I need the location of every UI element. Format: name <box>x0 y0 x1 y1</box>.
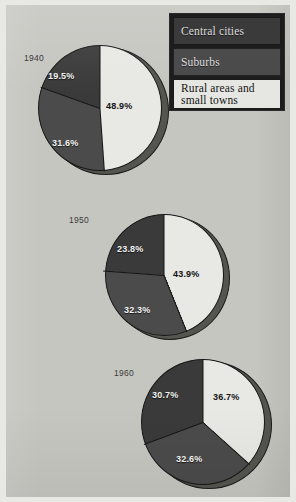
pie-value-1960-suburbs: 32.6% <box>176 454 203 464</box>
pie-value-1940-rural: 48.9% <box>106 101 133 111</box>
pie-seg-line-1940-a <box>100 46 101 109</box>
pie-value-1950-rural: 43.9% <box>173 269 200 279</box>
legend-item-rural-areas-and-small-towns: Rural areas and small towns <box>173 79 281 109</box>
pie-value-1960-rural: 36.7% <box>213 392 240 402</box>
pie-year-label-1950: 1950 <box>69 215 89 225</box>
legend-item-central-cities: Central cities <box>173 17 281 45</box>
pie-value-1950-central-cities: 23.8% <box>117 244 144 254</box>
pie-chart-1940: 1940 19.5% 31.6% 48.9% <box>24 35 159 185</box>
pie-year-label-1960: 1960 <box>114 368 134 378</box>
pie-seg-line-1950-a <box>164 215 165 276</box>
figure-canvas: Central cities Suburbs Rural areas and s… <box>6 5 290 497</box>
pie-year-label-1940: 1940 <box>24 53 44 63</box>
pie-chart-1950: 1950 23.8% 32.3% 43.9% <box>91 205 231 355</box>
legend-label-suburbs: Suburbs <box>181 56 220 69</box>
pie-value-1940-central-cities: 19.5% <box>48 71 75 81</box>
legend-label-rural-areas-and-small-towns: Rural areas and small towns <box>181 82 280 107</box>
legend-item-suburbs: Suburbs <box>173 48 281 76</box>
legend-label-central-cities: Central cities <box>181 25 244 38</box>
pie-chart-1960: 1960 30.7% 32.6% 36.7% <box>120 350 270 497</box>
pie-value-1940-suburbs: 31.6% <box>52 138 79 148</box>
legend: Central cities Suburbs Rural areas and s… <box>169 13 285 111</box>
pie-value-1960-central-cities: 30.7% <box>152 390 179 400</box>
pie-value-1950-suburbs: 32.3% <box>124 305 151 315</box>
pie-seg-line-1960-a <box>203 360 204 423</box>
